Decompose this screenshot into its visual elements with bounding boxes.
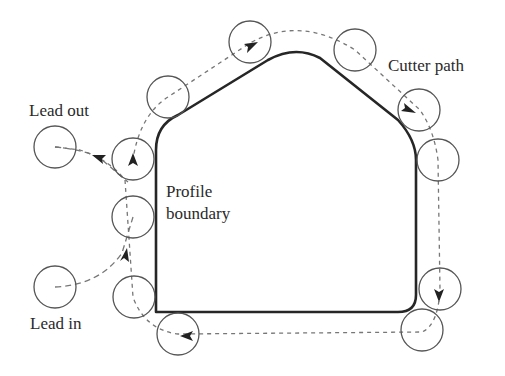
lead-out-label: Lead out xyxy=(29,101,89,121)
arrow-down-icon xyxy=(434,289,444,302)
arrow-top-right-icon xyxy=(244,42,258,53)
cutter-circle-top-left xyxy=(147,76,189,118)
arrow-up-icon xyxy=(128,153,138,166)
cutter-circle-top xyxy=(229,21,271,63)
arrow-left-icon xyxy=(180,331,193,341)
profile-boundary-label-line2: boundary xyxy=(166,204,230,224)
cutter-circle-right-bottom xyxy=(419,268,461,310)
cutter-path-label: Cutter path xyxy=(388,56,464,76)
cutter-circle-left-bottom xyxy=(113,276,155,318)
direction-arrows xyxy=(92,42,444,341)
profile-boundary-label-line1: Profile xyxy=(166,182,212,202)
arrow-lead-out-icon xyxy=(92,155,106,164)
cutter-circle-top-right xyxy=(334,29,376,71)
cutter-circle-bottom-right xyxy=(401,309,443,351)
lead-in-label: Lead in xyxy=(30,314,81,334)
arrow-down-right-icon xyxy=(401,103,416,113)
lead-in-path xyxy=(55,217,133,287)
cutter-path xyxy=(55,31,440,334)
